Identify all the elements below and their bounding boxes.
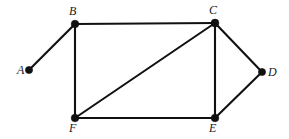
graph-edge-c-d xyxy=(215,23,262,72)
graph-canvas xyxy=(0,0,289,139)
graph-vertex-b xyxy=(71,20,79,28)
graph-edge-d-e xyxy=(215,72,262,118)
vertex-label-f: F xyxy=(69,122,76,134)
graph-edge-a-b xyxy=(29,24,75,70)
vertex-label-e: E xyxy=(209,122,216,134)
graph-diagram: ABCDEF xyxy=(0,0,289,139)
vertex-label-a: A xyxy=(17,64,24,76)
graph-vertex-d xyxy=(258,68,265,75)
graph-edge-b-c xyxy=(75,23,215,24)
edges-group xyxy=(29,23,262,118)
vertex-label-d: D xyxy=(268,66,277,78)
graph-vertex-c xyxy=(211,19,219,27)
graph-edge-c-f xyxy=(75,23,215,118)
vertex-label-b: B xyxy=(69,5,76,17)
vertex-label-c: C xyxy=(209,4,217,16)
graph-vertex-a xyxy=(25,66,32,73)
